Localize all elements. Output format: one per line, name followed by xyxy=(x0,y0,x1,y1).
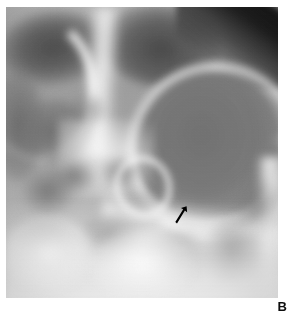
radiograph-image xyxy=(6,7,278,298)
figure-plate: B xyxy=(0,0,290,316)
region-bright-lobe-bottom-mid xyxy=(90,230,194,298)
region-bright-lobe-bottom-left xyxy=(6,216,94,292)
panel-label: B xyxy=(278,300,287,313)
region-ethmoid-cell-superior xyxy=(68,91,108,127)
